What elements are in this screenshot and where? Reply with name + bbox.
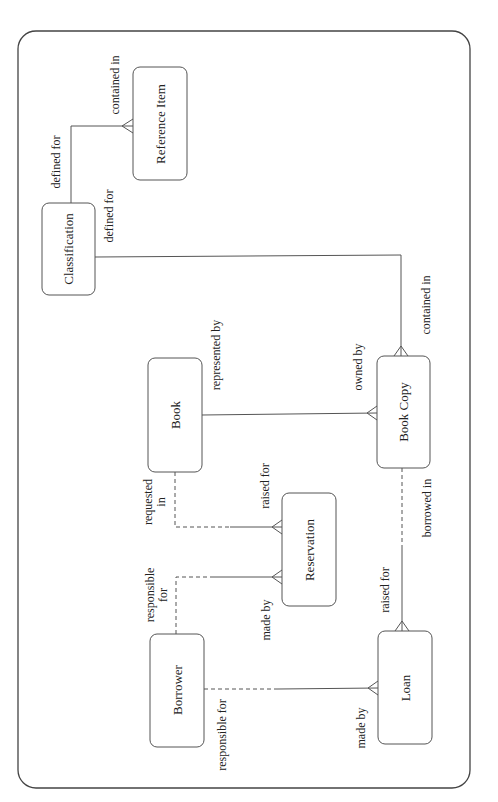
rel-book-copy-loan (395, 468, 409, 631)
label-cls-copy-to: contained in (419, 276, 433, 335)
entity-borrower[interactable]: Borrower (150, 634, 204, 747)
label-bor-res-from-line1: responsible (143, 568, 157, 623)
entity-label: Classification (61, 213, 76, 285)
label-book-copy-to: owned by (351, 344, 365, 391)
entity-reservation[interactable]: Reservation (282, 493, 336, 606)
entity-loan[interactable]: Loan (378, 631, 432, 744)
entity-label: Book (168, 400, 183, 429)
entity-classification[interactable]: Classification (42, 203, 95, 295)
label-bor-res-from-line2: for (156, 588, 170, 602)
label-cls-copy-from: defined for (102, 190, 116, 243)
er-diagram: Classification Reference Item Book Book … (0, 0, 498, 802)
label-bor-loan-to: made by (354, 708, 368, 749)
rel-book-book-copy (202, 406, 377, 420)
entity-label: Loan (398, 674, 413, 701)
entity-label: Borrower (170, 664, 185, 714)
label-copy-loan-to: raised for (378, 567, 392, 613)
label-book-copy-from: represented by (209, 320, 223, 390)
label-book-res-from-line2: in (154, 497, 168, 506)
rel-classification-book-copy (95, 255, 408, 356)
label-copy-loan-from: borrowed in (420, 479, 434, 537)
label-book-res-to: raised for (258, 463, 272, 509)
label-book-res-from-line1: requested (141, 479, 155, 525)
label-cls-ref-from: defined for (49, 136, 63, 189)
entity-reference-item[interactable]: Reference Item (133, 67, 187, 180)
entity-label: Book Copy (396, 382, 411, 442)
label-cls-ref-to: contained in (108, 56, 122, 115)
rel-borrower-loan (204, 681, 378, 695)
label-bor-loan-from: responsible for (215, 699, 229, 771)
label-bor-res-to: made by (259, 600, 273, 641)
entity-label: Reference Item (153, 84, 168, 164)
entity-book-copy[interactable]: Book Copy (377, 356, 430, 468)
entity-book[interactable]: Book (148, 358, 202, 472)
entity-label: Reservation (302, 518, 317, 581)
